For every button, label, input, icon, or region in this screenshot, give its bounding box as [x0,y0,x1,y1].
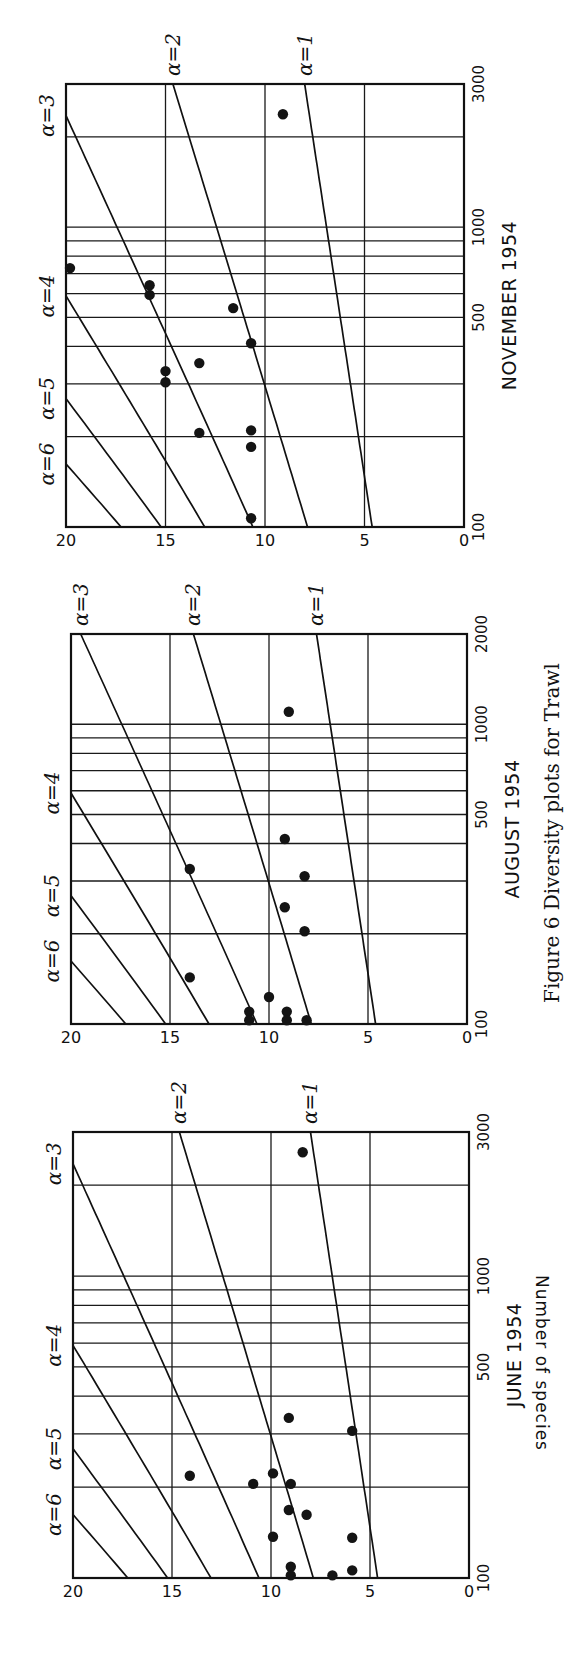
alpha-label: α=2 [161,33,185,76]
data-point [284,1413,294,1423]
y-tick-label: 0 [462,1028,472,1047]
data-point [299,926,309,936]
alpha-curve-3 [59,1132,259,1578]
data-point [264,992,274,1002]
data-point [246,338,256,348]
panel-november-1954: α=1α=2α=3α=4α=5α=61005001000300005101520… [0,33,520,550]
alpha-label: α=1 [293,33,317,76]
alpha-curve-3 [81,634,257,1024]
y-axis-label: Number of species [532,1275,552,1451]
alpha-curve-5 [0,84,161,527]
x-tick-label: 500 [470,303,488,332]
x-tick-label: 100 [470,513,488,542]
y-tick-label: 0 [459,531,469,550]
data-point [160,366,170,376]
data-point [347,1533,357,1543]
alpha-label: α=6 [42,1493,66,1536]
data-point [185,1471,195,1481]
alpha-label: α=5 [42,1427,66,1470]
data-point [301,1510,311,1520]
x-tick-label: 100 [475,1564,493,1593]
alpha-curve-4 [0,634,209,1024]
alpha-curve-5 [0,634,166,1024]
x-tick-label: 1000 [473,705,491,743]
y-tick-label: 20 [56,531,76,550]
data-point [298,1147,308,1157]
alpha-curve-4 [0,1132,211,1578]
alpha-curve-6 [0,84,121,527]
data-point [284,707,294,717]
alpha-curve-3 [52,84,253,527]
alpha-curve-1 [317,634,376,1024]
panel-title: NOVEMBER 1954 [498,221,520,390]
x-tick-label: 3000 [475,1113,493,1151]
y-tick-label: 10 [259,1028,279,1047]
data-point [280,834,290,844]
data-point [160,377,170,387]
data-point [248,1479,258,1489]
alpha-label: α=2 [181,583,205,626]
alpha-label: α=4 [40,772,64,815]
figure: α=1α=2α=3α=4α=5α=61005001000300005101520… [0,0,569,1663]
data-point [194,428,204,438]
alpha-label: α=6 [40,939,64,982]
data-point [268,1532,278,1542]
x-tick-label: 500 [475,1353,493,1382]
alpha-label: α=3 [42,1142,66,1185]
alpha-label: α=5 [40,874,64,917]
y-tick-label: 10 [261,1582,281,1601]
data-point [299,871,309,881]
panel-title: AUGUST 1954 [501,759,523,898]
data-point [280,902,290,912]
data-point [144,280,154,290]
alpha-label: α=4 [35,274,59,317]
data-point [282,1015,292,1025]
x-tick-label: 3000 [470,65,488,103]
panel-title: JUNE 1954 [503,1303,525,1409]
data-point [347,1565,357,1575]
data-point [185,972,195,982]
data-point [268,1468,278,1478]
y-tick-label: 5 [365,1582,375,1601]
y-tick-label: 5 [359,531,369,550]
x-tick-label: 1000 [475,1257,493,1295]
figure-caption: Figure 6 Diversity plots for Trawl [540,663,564,1003]
alpha-label: α=1 [304,583,328,626]
y-tick-label: 15 [160,1028,180,1047]
data-point [284,1505,294,1515]
y-tick-label: 10 [255,531,275,550]
data-point [246,425,256,435]
panel-august-1954: α=1α=2α=3α=4α=5α=61005001000200005101520… [0,583,523,1047]
x-tick-label: 2000 [473,615,491,653]
panel-june-1954: α=1α=2α=3α=4α=5α=61005001000300005101520… [0,1081,525,1601]
data-point [286,1479,296,1489]
alpha-label: α=3 [69,583,93,626]
alpha-curve-4 [0,84,205,527]
data-point [278,109,288,119]
data-point [286,1570,296,1580]
y-tick-label: 0 [464,1582,474,1601]
alpha-curve-2 [193,634,311,1024]
data-point [144,290,154,300]
data-point [301,1015,311,1025]
alpha-curve-2 [173,84,308,527]
data-point [185,864,195,874]
alpha-label: α=3 [35,94,59,137]
alpha-curve-5 [0,1132,168,1578]
alpha-curve-1 [305,84,373,527]
data-point [244,1015,254,1025]
alpha-label: α=1 [298,1081,322,1124]
y-tick-label: 5 [363,1028,373,1047]
alpha-label: α=2 [167,1081,191,1124]
alpha-label: α=6 [35,442,59,485]
data-point [65,263,75,273]
data-point [347,1426,357,1436]
alpha-label: α=4 [42,1324,66,1367]
y-tick-label: 20 [63,1582,83,1601]
y-tick-label: 15 [155,531,175,550]
alpha-curve-1 [311,1132,378,1578]
data-point [246,442,256,452]
alpha-label: α=5 [35,377,59,420]
data-point [194,358,204,368]
x-tick-label: 1000 [470,208,488,246]
